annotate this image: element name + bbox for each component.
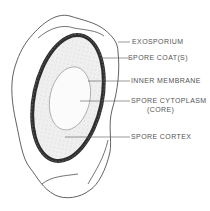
label-spore-coat: SPORE COAT(S) [128,54,188,62]
label-spore-cytoplasm-core: (CORE) [147,106,174,114]
label-spore-cortex: SPORE CORTEX [131,133,191,141]
label-inner-membrane: INNER MEMBRANE [131,77,201,85]
exosporium-fold-bottom [42,174,78,184]
spore-diagram [0,0,210,211]
label-spore-cytoplasm: SPORE CYTOPLASM [131,97,207,105]
exosporium-fold-right [88,140,108,184]
label-exosporium: EXOSPORIUM [132,38,183,46]
